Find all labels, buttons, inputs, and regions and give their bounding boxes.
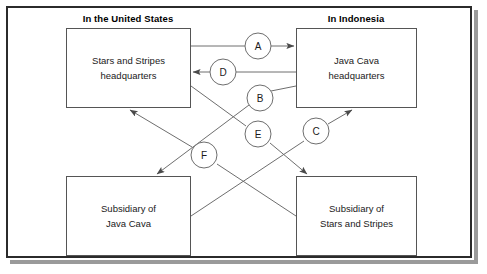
connector-label-e: E	[255, 129, 262, 140]
box-subsidiary-of-java-cava: Subsidiary of Java Cava	[66, 176, 191, 256]
frame-shadow-right	[474, 10, 478, 264]
box-jc-hq-line-2: headquarters	[329, 68, 385, 83]
column-heading-united-states: In the United States	[83, 13, 174, 24]
box-jc-sub-line-1: Subsidiary of	[101, 201, 156, 216]
connector-label-c: C	[312, 126, 319, 137]
box-subsidiary-of-stars-and-stripes: Subsidiary of Stars and Stripes	[296, 176, 417, 256]
box-jc-hq-line-1: Java Cava	[334, 53, 379, 68]
connector-label-d: D	[219, 67, 226, 78]
box-jc-sub-line-2: Java Cava	[106, 216, 151, 231]
connector-label-a: A	[255, 41, 262, 52]
box-stars-and-stripes-headquarters: Stars and Stripes headquarters	[66, 28, 191, 108]
diagram-canvas: In the United States In Indonesia	[0, 0, 487, 274]
connector-label-b: B	[257, 93, 264, 104]
box-java-cava-headquarters: Java Cava headquarters	[296, 28, 417, 108]
box-ss-hq-line-1: Stars and Stripes	[92, 53, 165, 68]
box-ss-sub-line-2: Stars and Stripes	[320, 216, 393, 231]
box-ss-hq-line-2: headquarters	[101, 68, 157, 83]
frame-shadow-bottom	[10, 260, 478, 264]
box-ss-sub-line-1: Subsidiary of	[329, 201, 384, 216]
column-heading-indonesia: In Indonesia	[328, 13, 385, 24]
connector-label-f: F	[201, 150, 207, 161]
